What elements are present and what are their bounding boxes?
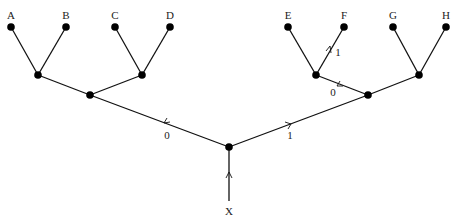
edge-right-gh <box>368 75 419 95</box>
node-ef <box>312 71 320 79</box>
edge-gh-g <box>393 27 419 75</box>
edge-left-cd <box>90 75 142 95</box>
arrow-up-icon <box>326 46 331 53</box>
leaf-f <box>340 23 348 31</box>
leaf-label-h: H <box>442 9 450 21</box>
leaf-h <box>442 23 450 31</box>
leaf-e <box>284 23 292 31</box>
leaf-label-a: A <box>7 9 15 21</box>
leaf-label-c: C <box>111 9 118 21</box>
edge-left-ab <box>38 75 90 95</box>
edge-ab-b <box>38 27 66 75</box>
leaf-labels: A B C D E F G H <box>7 9 450 21</box>
edge-cd-d <box>142 27 170 75</box>
node-cd <box>138 71 146 79</box>
node-right <box>364 91 372 99</box>
edge-ab-a <box>11 27 38 75</box>
edge-ef-e <box>288 27 316 75</box>
arrow-left-icon <box>164 118 170 123</box>
edge-right-ef <box>316 75 368 95</box>
edge-labels: 0 1 0 1 <box>164 46 341 141</box>
leaf-label-d: D <box>166 9 174 21</box>
direction-arrows <box>164 46 343 178</box>
node-ab <box>34 71 42 79</box>
leaf-label-g: G <box>389 9 397 21</box>
leaf-label-e: E <box>285 9 292 21</box>
leaf-b <box>62 23 70 31</box>
leaf-a <box>7 23 15 31</box>
edge-label-ef-right: 1 <box>335 46 341 58</box>
edge-root-right <box>229 95 368 147</box>
tree-nodes <box>7 23 450 151</box>
edge-root-left <box>90 95 229 147</box>
leaf-label-f: F <box>341 9 347 21</box>
edge-cd-c <box>115 27 142 75</box>
tree-edges <box>11 27 446 201</box>
node-left <box>86 91 94 99</box>
tree-diagram: A B C D E F G H X 0 1 0 1 <box>0 0 459 220</box>
leaf-d <box>166 23 174 31</box>
edge-gh-h <box>419 27 446 75</box>
leaf-c <box>111 23 119 31</box>
edge-label-root-left: 0 <box>164 129 170 141</box>
root-label: X <box>225 205 233 217</box>
leaf-g <box>389 23 397 31</box>
node-gh <box>415 71 423 79</box>
edge-label-right-left: 0 <box>330 86 336 98</box>
node-root <box>225 143 233 151</box>
edge-label-root-right: 1 <box>287 129 293 141</box>
leaf-label-b: B <box>62 9 69 21</box>
